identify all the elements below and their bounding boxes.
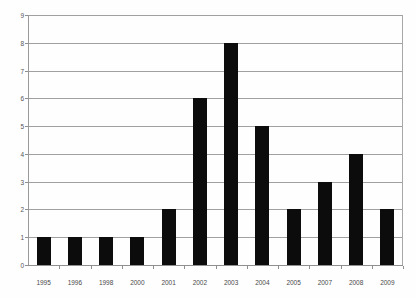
bar	[130, 237, 144, 265]
x-axis-tick-label: 2002	[184, 279, 215, 287]
y-axis-tick-label: 3	[2, 179, 24, 186]
x-axis-tick-label: 1995	[28, 279, 59, 287]
y-tick-6	[25, 98, 28, 99]
bar-slot	[309, 15, 340, 265]
x-axis-tick-label: 2005	[278, 279, 309, 287]
x-tick	[122, 266, 123, 269]
y-axis-tick-label: 4	[2, 151, 24, 158]
x-tick	[91, 266, 92, 269]
x-tick	[153, 266, 154, 269]
x-tick	[372, 266, 373, 269]
x-tick	[184, 266, 185, 269]
x-axis-tick-label: 2009	[372, 279, 403, 287]
x-axis-tick-label: 2000	[122, 279, 153, 287]
bar-slot	[247, 15, 278, 265]
y-axis-tick-label: 1	[2, 234, 24, 241]
bar-slot	[184, 15, 215, 265]
bar-slot	[122, 15, 153, 265]
x-axis-tick-label: 2003	[216, 279, 247, 287]
y-tick-1	[25, 237, 28, 238]
bar	[255, 126, 269, 265]
x-axis-tick-label: 2001	[153, 279, 184, 287]
bar-chart: 0123456789 19951996199820002001200220032…	[0, 0, 416, 299]
y-axis-tick-label: 2	[2, 206, 24, 213]
bar-slot	[372, 15, 403, 265]
bar-slot	[153, 15, 184, 265]
bar	[162, 209, 176, 265]
x-tick	[247, 266, 248, 269]
bar	[318, 182, 332, 265]
x-axis-tick-label: 2007	[309, 279, 340, 287]
y-axis-tick-label: 9	[2, 12, 24, 19]
y-tick-5	[25, 126, 28, 127]
y-axis-labels: 0123456789	[0, 0, 24, 299]
x-axis-tick-label: 1998	[91, 279, 122, 287]
y-tick-4	[25, 154, 28, 155]
bar	[287, 209, 301, 265]
y-axis-tick-label: 5	[2, 123, 24, 130]
y-axis-tick-label: 8	[2, 40, 24, 47]
x-axis-tick-label: 2004	[247, 279, 278, 287]
x-tick	[278, 266, 279, 269]
x-tick	[309, 266, 310, 269]
bar-slot	[341, 15, 372, 265]
y-axis-tick-label: 7	[2, 68, 24, 75]
bar-slot	[91, 15, 122, 265]
bar-slot	[278, 15, 309, 265]
y-tick-9	[25, 15, 28, 16]
bar	[37, 237, 51, 265]
x-tick	[216, 266, 217, 269]
bar	[349, 154, 363, 265]
bars-container	[28, 15, 403, 265]
bar	[193, 98, 207, 265]
y-tick-7	[25, 71, 28, 72]
y-axis-tick-label: 6	[2, 95, 24, 102]
bar	[68, 237, 82, 265]
y-tick-3	[25, 182, 28, 183]
bar-slot	[28, 15, 59, 265]
x-tick	[59, 266, 60, 269]
y-axis-tick-label: 0	[2, 262, 24, 269]
bar	[380, 209, 394, 265]
x-axis-tick-label: 2008	[341, 279, 372, 287]
bar-slot	[59, 15, 90, 265]
x-tick	[403, 266, 404, 269]
x-tick	[341, 266, 342, 269]
y-tick-2	[25, 209, 28, 210]
bar-slot	[216, 15, 247, 265]
bar	[224, 43, 238, 265]
x-axis-tick-label: 1996	[59, 279, 90, 287]
bar	[99, 237, 113, 265]
y-tick-0	[25, 265, 28, 266]
y-tick-8	[25, 43, 28, 44]
